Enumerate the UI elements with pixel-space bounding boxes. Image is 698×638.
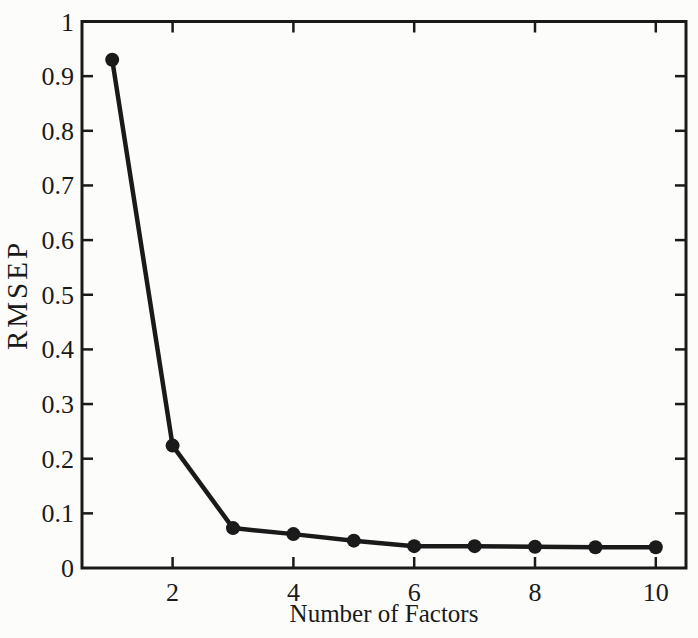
y-tick-label: 0.1 [42,499,75,528]
x-tick-label: 10 [643,578,669,607]
data-point [528,540,542,554]
y-tick-label: 0.9 [42,62,75,91]
y-tick-label: 0.2 [42,445,75,474]
data-point [226,521,240,535]
data-line [112,60,656,547]
data-point [347,534,361,548]
x-axis-label: Number of Factors [184,600,584,627]
y-tick-label: 0.4 [42,335,75,364]
y-axis-label: RMSEP [2,215,32,375]
rmsep-line-chart-figure: 24681000.10.20.30.40.50.60.70.80.91 RMSE… [0,0,698,638]
data-point [588,540,602,554]
data-point [468,539,482,553]
chart-canvas: 24681000.10.20.30.40.50.60.70.80.91 [0,0,698,638]
data-point [166,439,180,453]
x-tick-label: 2 [166,578,179,607]
y-tick-label: 0.8 [42,117,75,146]
y-tick-label: 0.3 [42,390,75,419]
y-tick-label: 0.7 [42,171,75,200]
axes-box [82,22,686,569]
data-point [407,539,421,553]
data-point [105,53,119,67]
y-tick-label: 0.6 [42,226,75,255]
data-point [286,527,300,541]
y-tick-label: 0.5 [42,281,75,310]
data-point [649,540,663,554]
y-tick-label: 1 [61,8,74,37]
y-tick-label: 0 [61,554,74,583]
